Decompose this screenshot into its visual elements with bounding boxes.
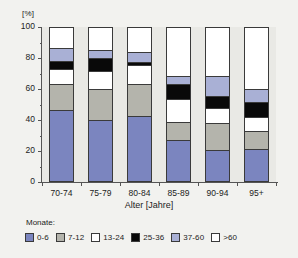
y-axis-tick-label: 20 xyxy=(26,145,35,155)
stacked-bar-chart: [%] 020406080100 70-7475-7980-8485-8990-… xyxy=(0,0,298,258)
bar-segment-0-6[interactable] xyxy=(206,151,229,181)
bar-segment--60[interactable] xyxy=(128,28,151,53)
bar-segment-25-36[interactable] xyxy=(245,103,268,118)
legend-swatch-icon xyxy=(56,233,65,242)
bar-segment-7-12[interactable] xyxy=(128,85,151,117)
bar-segment-0-6[interactable] xyxy=(50,111,73,181)
bar-segment-7-12[interactable] xyxy=(89,90,112,121)
legend-item-25-36[interactable]: 25-36 xyxy=(131,233,164,242)
bar-segment--60[interactable] xyxy=(167,28,190,77)
y-axis-tick-label: 40 xyxy=(26,114,35,124)
x-axis-tick-label: 95+ xyxy=(227,188,287,198)
bar-segment-37-60[interactable] xyxy=(245,90,268,103)
legend-swatch-icon xyxy=(131,233,140,242)
x-axis-tick-mark xyxy=(42,182,43,186)
legend-swatch-icon xyxy=(211,233,220,242)
bar-segment-13-24[interactable] xyxy=(167,100,190,123)
bar-column[interactable] xyxy=(244,27,269,182)
bar-column[interactable] xyxy=(127,27,152,182)
x-axis-tick-mark xyxy=(159,182,160,186)
bar-segment-7-12[interactable] xyxy=(167,123,190,141)
y-axis-unit-label: [%] xyxy=(22,9,34,18)
legend: 0-67-1213-2425-3637-60>60 xyxy=(25,233,293,242)
bar-column[interactable] xyxy=(166,27,191,182)
legend-item-7-12[interactable]: 7-12 xyxy=(56,233,84,242)
bar-column[interactable] xyxy=(49,27,74,182)
bars-group xyxy=(42,27,276,182)
legend-item--60[interactable]: >60 xyxy=(211,233,237,242)
bar-column[interactable] xyxy=(88,27,113,182)
legend-swatch-icon xyxy=(25,233,34,242)
x-axis-tick-mark xyxy=(276,182,277,186)
bar-segment-13-24[interactable] xyxy=(50,70,73,85)
bar-segment-7-12[interactable] xyxy=(206,124,229,151)
bar-segment-13-24[interactable] xyxy=(206,109,229,124)
bar-segment-25-36[interactable] xyxy=(50,62,73,70)
y-axis-tick-label: 80 xyxy=(26,52,35,62)
bar-column[interactable] xyxy=(205,27,230,182)
bar-segment-25-36[interactable] xyxy=(206,97,229,109)
x-axis-tick-mark xyxy=(81,182,82,186)
y-axis-tick-label: 100 xyxy=(21,21,35,31)
legend-item-label: 13-24 xyxy=(103,233,124,242)
bar-segment-13-24[interactable] xyxy=(245,118,268,132)
bar-segment-25-36[interactable] xyxy=(89,59,112,73)
bar-segment--60[interactable] xyxy=(50,28,73,49)
bar-segment--60[interactable] xyxy=(245,28,268,90)
bar-segment-7-12[interactable] xyxy=(245,132,268,150)
bar-segment-25-36[interactable] xyxy=(167,85,190,100)
y-axis-tick-label: 0 xyxy=(30,176,35,186)
y-axis-tick-label: 60 xyxy=(26,83,35,93)
legend-item-label: 7-12 xyxy=(68,233,84,242)
legend-item-label: >60 xyxy=(223,233,237,242)
x-axis-tick-mark xyxy=(198,182,199,186)
legend-title: Monate: xyxy=(26,218,55,227)
bar-segment-13-24[interactable] xyxy=(128,66,151,85)
x-axis-tick-mark xyxy=(120,182,121,186)
legend-item-label: 37-60 xyxy=(183,233,204,242)
bar-segment--60[interactable] xyxy=(206,28,229,77)
bar-segment-0-6[interactable] xyxy=(89,121,112,181)
legend-item-label: 0-6 xyxy=(37,233,49,242)
bar-segment-7-12[interactable] xyxy=(50,85,73,111)
bar-segment-0-6[interactable] xyxy=(128,117,151,181)
bar-segment-37-60[interactable] xyxy=(206,77,229,97)
legend-swatch-icon xyxy=(171,233,180,242)
bar-segment-13-24[interactable] xyxy=(89,72,112,90)
bar-segment-37-60[interactable] xyxy=(128,53,151,63)
bar-segment-37-60[interactable] xyxy=(167,77,190,85)
legend-item-37-60[interactable]: 37-60 xyxy=(171,233,204,242)
x-axis-title: Alter [Jahre] xyxy=(0,200,298,210)
x-axis-tick-mark xyxy=(237,182,238,186)
legend-item-label: 25-36 xyxy=(143,233,164,242)
legend-item-13-24[interactable]: 13-24 xyxy=(91,233,124,242)
legend-item-0-6[interactable]: 0-6 xyxy=(25,233,49,242)
bar-segment-0-6[interactable] xyxy=(245,150,268,181)
bar-segment-0-6[interactable] xyxy=(167,141,190,181)
bar-segment-37-60[interactable] xyxy=(50,49,73,62)
x-axis-line xyxy=(42,182,278,183)
legend-swatch-icon xyxy=(91,233,100,242)
bar-segment-37-60[interactable] xyxy=(89,51,112,59)
bar-segment--60[interactable] xyxy=(89,28,112,51)
